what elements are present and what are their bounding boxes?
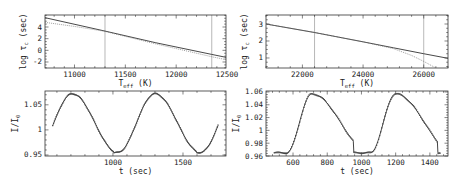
data-point: [389, 101, 390, 102]
panel-bottom-left-lightcurve: 100015000.9511.05t (sec)I/I0: [11, 91, 226, 176]
data-point: [414, 106, 415, 107]
data-point: [405, 98, 406, 99]
data-point: [170, 109, 171, 110]
data-point: [131, 134, 132, 135]
y-tick-label: 1.02: [245, 113, 263, 122]
data-point: [101, 135, 102, 136]
data-point: [424, 123, 425, 124]
data-point: [175, 118, 176, 119]
data-point: [99, 132, 100, 133]
data-point: [105, 141, 106, 142]
data-point: [301, 114, 302, 115]
x-tick-label: 1000: [104, 158, 123, 167]
data-point: [413, 105, 414, 106]
data-point: [387, 106, 388, 107]
data-point: [401, 94, 402, 95]
data-point: [434, 138, 435, 139]
y-tick-label: 2: [258, 36, 263, 45]
data-point: [146, 100, 147, 101]
data-point: [171, 111, 172, 112]
data-point: [329, 106, 330, 107]
data-point: [94, 121, 95, 122]
data-point: [285, 153, 286, 154]
data-point: [175, 120, 176, 121]
data-point: [391, 97, 392, 98]
data-point: [305, 100, 306, 101]
data-point: [330, 108, 331, 109]
data-point: [395, 93, 396, 94]
data-point: [209, 144, 210, 145]
data-point: [335, 114, 336, 115]
data-point: [310, 93, 311, 94]
data-point: [378, 139, 379, 140]
data-point: [56, 114, 57, 115]
data-point: [291, 146, 292, 147]
data-point: [66, 97, 67, 98]
data-point: [422, 120, 423, 121]
data-point: [356, 152, 357, 153]
data-point: [109, 148, 110, 149]
data-point: [385, 112, 386, 113]
panel-top-right-logtau-vs-teff: 220002400026000123Teff (K)log τc (sec): [240, 13, 448, 89]
data-point: [324, 99, 325, 100]
data-point: [132, 132, 133, 133]
data-point: [96, 125, 97, 126]
data-point: [339, 120, 340, 121]
data-point: [328, 105, 329, 106]
y-tick-label: 1: [258, 126, 263, 135]
figure-canvas: 11000115001200012500-2024Teff (K)log τc …: [0, 0, 462, 187]
data-point: [182, 132, 183, 133]
data-point: [279, 152, 280, 153]
y-tick-label: 1.04: [245, 100, 264, 109]
data-point: [214, 133, 215, 134]
data-point: [100, 134, 101, 135]
x-tick-label: 600: [286, 158, 300, 167]
data-point: [429, 130, 430, 131]
data-point: [286, 153, 287, 154]
data-point: [364, 153, 365, 154]
data-point: [60, 106, 61, 107]
data-point: [437, 153, 438, 154]
y-axis-label: I/I0: [11, 115, 21, 133]
data-point: [397, 93, 398, 94]
data-point: [127, 143, 128, 144]
x-tick-label: 24000: [352, 70, 375, 79]
data-point: [133, 130, 134, 131]
data-point: [186, 141, 187, 142]
data-point: [57, 112, 58, 113]
data-point: [407, 100, 408, 101]
data-point: [139, 114, 140, 115]
data-point: [55, 116, 56, 117]
data-point: [371, 152, 372, 153]
data-point: [348, 135, 349, 136]
plot-frame: [266, 91, 448, 156]
data-point: [322, 97, 323, 98]
data-point: [338, 118, 339, 119]
data-point: [398, 93, 399, 94]
data-point: [380, 131, 381, 132]
data-point: [141, 109, 142, 110]
data-point: [365, 152, 366, 153]
data-point: [416, 109, 417, 110]
x-tick-label: 1400: [421, 158, 440, 167]
data-point: [299, 121, 300, 122]
data-point: [351, 138, 352, 139]
data-point: [359, 153, 360, 154]
data-point: [331, 109, 332, 110]
data-point: [382, 123, 383, 124]
data-point: [65, 98, 66, 99]
data-point: [88, 111, 89, 112]
data-point: [369, 151, 370, 152]
data-point: [275, 152, 276, 153]
data-point: [63, 101, 64, 102]
data-point: [208, 145, 209, 146]
data-point: [142, 107, 143, 108]
data-point: [143, 106, 144, 107]
data-point: [179, 125, 180, 126]
data-point: [91, 115, 92, 116]
data-point: [308, 94, 309, 95]
data-point: [327, 103, 328, 104]
data-point: [102, 137, 103, 138]
data-point: [360, 153, 361, 154]
data-point: [61, 104, 62, 105]
